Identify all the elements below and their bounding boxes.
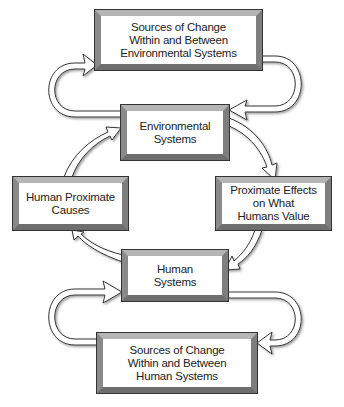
node-label: Proximate Effects on What Humans Value bbox=[230, 184, 317, 223]
arrow-human-to-causes bbox=[72, 230, 123, 262]
arrow-causes-to-env bbox=[64, 127, 121, 177]
node-human-sources: Sources of Change Within and Between Hum… bbox=[97, 333, 257, 393]
node-env-sources: Sources of Change Within and Between Env… bbox=[95, 10, 262, 70]
node-env-systems: Environmental Systems bbox=[121, 105, 229, 160]
node-label: Human Systems bbox=[154, 263, 197, 289]
node-human-causes: Human Proximate Causes bbox=[13, 177, 128, 230]
node-label: Environmental Systems bbox=[140, 120, 211, 146]
node-proximate-effects: Proximate Effects on What Humans Value bbox=[216, 177, 331, 230]
node-label: Human Proximate Causes bbox=[26, 191, 115, 217]
arrow-effects-to-human bbox=[225, 230, 262, 270]
node-label: Sources of Change Within and Between Env… bbox=[120, 21, 237, 60]
arrow-env-to-effects bbox=[229, 118, 277, 180]
node-label: Sources of Change Within and Between Hum… bbox=[128, 344, 227, 383]
node-human-systems: Human Systems bbox=[122, 250, 228, 301]
